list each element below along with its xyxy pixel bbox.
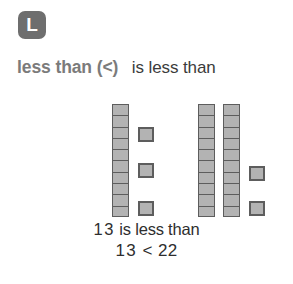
vocabulary-definition: is less than bbox=[132, 58, 216, 77]
letter-badge-glyph: L bbox=[26, 15, 38, 34]
rod-cube bbox=[198, 160, 215, 171]
rod-cube bbox=[112, 104, 129, 115]
unit-cube bbox=[138, 163, 154, 178]
rod-cube bbox=[198, 194, 215, 205]
rod-cube bbox=[223, 127, 240, 138]
rod-cube bbox=[198, 183, 215, 194]
rod-cube bbox=[112, 172, 129, 183]
rod-cube bbox=[223, 160, 240, 171]
ten-rod bbox=[198, 104, 215, 217]
ten-rod bbox=[223, 104, 240, 217]
unit-cube bbox=[249, 201, 265, 216]
comparison-sentence-block: 13 is less than 13 < 22 bbox=[0, 219, 293, 262]
vocabulary-term: less than (<) bbox=[17, 57, 118, 77]
unit-cube bbox=[249, 166, 265, 181]
symbol-left-number: 13 bbox=[115, 241, 137, 260]
rod-cube bbox=[198, 127, 215, 138]
rod-cube bbox=[198, 115, 215, 126]
rod-cube bbox=[223, 149, 240, 160]
rod-cube bbox=[198, 138, 215, 149]
rod-cube bbox=[198, 172, 215, 183]
sentence-first-number: 13 bbox=[94, 220, 115, 238]
comparison-sentence-symbols: 13 < 22 bbox=[0, 240, 293, 262]
ten-rod bbox=[112, 104, 129, 217]
heading-row: less than (<) is less than bbox=[17, 57, 287, 81]
unit-cubes-left bbox=[138, 104, 154, 217]
rod-cube bbox=[112, 183, 129, 194]
rod-cube bbox=[112, 138, 129, 149]
unit-cube bbox=[138, 201, 154, 216]
rod-cube bbox=[112, 206, 129, 217]
rod-cube bbox=[223, 183, 240, 194]
rod-cube bbox=[198, 149, 215, 160]
rod-cube bbox=[198, 104, 215, 115]
sentence-phrase-text: is less than bbox=[119, 220, 199, 238]
rod-cube bbox=[112, 115, 129, 126]
rod-cube bbox=[112, 149, 129, 160]
less-than-operator: < bbox=[142, 241, 152, 260]
rod-cube bbox=[223, 194, 240, 205]
letter-badge: L bbox=[18, 11, 46, 39]
rod-cube bbox=[112, 160, 129, 171]
symbol-right-number: 22 bbox=[158, 241, 178, 260]
unit-cubes-right bbox=[249, 104, 265, 217]
comparison-sentence-words: 13 is less than bbox=[0, 219, 293, 240]
rod-cube bbox=[198, 206, 215, 217]
rod-cube bbox=[223, 172, 240, 183]
rod-cube bbox=[112, 127, 129, 138]
rod-cube bbox=[223, 115, 240, 126]
rod-cube bbox=[223, 104, 240, 115]
unit-cube bbox=[138, 127, 154, 142]
rod-cube bbox=[223, 206, 240, 217]
rod-cube bbox=[223, 138, 240, 149]
rod-cube bbox=[112, 194, 129, 205]
base-ten-blocks-illustration bbox=[0, 99, 293, 217]
